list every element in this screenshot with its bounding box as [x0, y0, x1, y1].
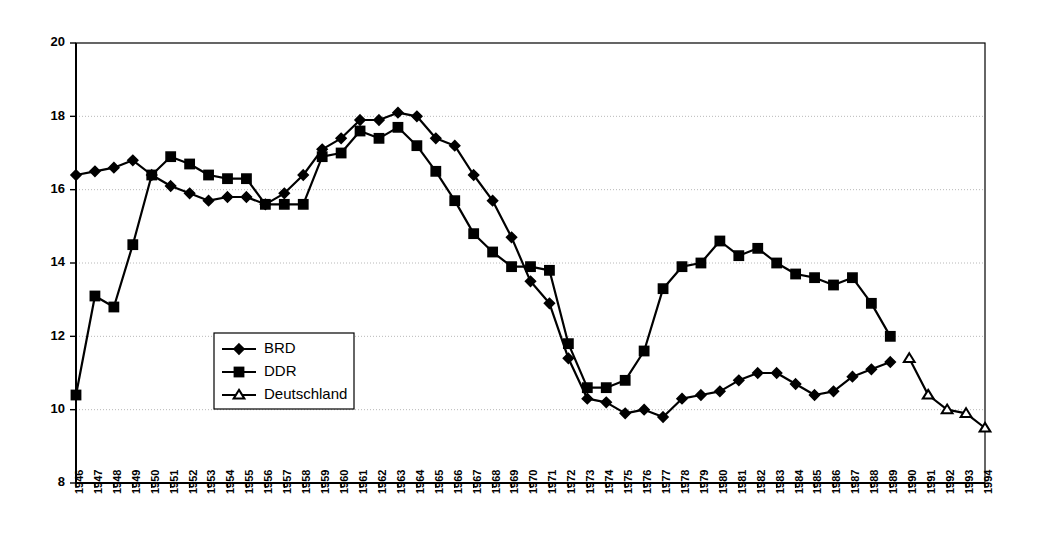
data-point-marker	[602, 383, 611, 392]
x-tick-label: 1948	[111, 470, 123, 494]
x-tick-label: 1976	[641, 470, 653, 494]
data-point-marker	[734, 375, 744, 385]
x-tick-label: 1957	[281, 470, 293, 494]
data-point-marker	[71, 390, 80, 399]
data-point-marker	[355, 126, 364, 135]
x-tick-label: 1989	[887, 470, 899, 494]
data-point-marker	[507, 232, 517, 242]
x-tick-label: 1975	[622, 470, 634, 494]
x-tick-label: 1986	[830, 470, 842, 494]
x-tick-label: 1967	[471, 470, 483, 494]
legend-item-label: Deutschland	[264, 385, 347, 402]
data-point-marker	[261, 200, 270, 209]
data-point-marker	[658, 284, 667, 293]
x-tick-label: 1981	[736, 470, 748, 494]
data-point-marker	[904, 353, 915, 362]
data-point-marker	[791, 269, 800, 278]
data-point-marker	[961, 408, 972, 417]
series-line	[909, 358, 985, 428]
data-point-marker	[753, 368, 763, 378]
data-point-marker	[488, 247, 497, 256]
chart-container: 8101214161820 19461947194819491950195119…	[0, 0, 1043, 551]
data-point-marker	[242, 174, 251, 183]
data-point-marker	[829, 280, 838, 289]
data-series	[71, 108, 990, 432]
y-tick-label: 18	[51, 108, 65, 123]
data-point-marker	[772, 258, 781, 267]
x-tick-label: 1965	[433, 470, 445, 494]
x-tick-label: 1952	[187, 470, 199, 494]
data-point-marker	[923, 390, 934, 399]
data-point-marker	[450, 196, 459, 205]
x-tick-label: 1968	[490, 470, 502, 494]
x-tick-label: 1958	[300, 470, 312, 494]
chart-legend: BRDDDRDeutschland	[214, 333, 354, 409]
data-point-marker	[563, 353, 573, 363]
data-point-marker	[810, 273, 819, 282]
x-tick-label: 1985	[811, 470, 823, 494]
x-tick-label: 1961	[357, 470, 369, 494]
data-point-marker	[241, 192, 251, 202]
data-point-marker	[810, 390, 820, 400]
x-tick-label: 1953	[205, 470, 217, 494]
data-point-marker	[337, 148, 346, 157]
y-tick-label: 8	[58, 474, 65, 489]
data-point-marker	[412, 141, 421, 150]
x-tick-label: 1973	[584, 470, 596, 494]
data-point-marker	[583, 383, 592, 392]
data-point-marker	[848, 273, 857, 282]
data-point-marker	[431, 167, 440, 176]
data-point-marker	[90, 291, 99, 300]
data-point-marker	[204, 170, 213, 179]
x-tick-label: 1993	[963, 470, 975, 494]
y-tick-label: 20	[51, 34, 65, 49]
data-point-marker	[469, 229, 478, 238]
data-point-marker	[128, 240, 137, 249]
data-point-marker	[393, 123, 402, 132]
data-point-marker	[885, 357, 895, 367]
data-point-marker	[753, 244, 762, 253]
x-tick-label: 1959	[319, 470, 331, 494]
data-point-marker	[185, 159, 194, 168]
data-point-marker	[90, 166, 100, 176]
data-point-marker	[715, 386, 725, 396]
series-line	[76, 113, 890, 417]
data-point-marker	[696, 258, 705, 267]
x-tick-label: 1980	[717, 470, 729, 494]
x-tick-label: 1979	[698, 470, 710, 494]
data-point-marker	[677, 262, 686, 271]
x-tick-label: 1987	[849, 470, 861, 494]
data-point-marker	[147, 170, 156, 179]
data-point-marker	[545, 266, 554, 275]
data-point-marker	[772, 368, 782, 378]
data-point-marker	[696, 390, 706, 400]
data-point-marker	[640, 346, 649, 355]
x-tick-label: 1963	[395, 470, 407, 494]
data-point-marker	[564, 339, 573, 348]
series-ddr	[71, 123, 895, 400]
x-tick-label: 1994	[982, 469, 994, 494]
y-tick-label: 12	[51, 328, 65, 343]
y-axis-labels: 8101214161820	[51, 34, 66, 489]
x-tick-label: 1947	[92, 470, 104, 494]
x-tick-label: 1983	[774, 470, 786, 494]
data-point-marker	[280, 200, 289, 209]
data-point-marker	[223, 192, 233, 202]
x-tick-label: 1974	[603, 469, 615, 494]
x-tick-label: 1982	[755, 470, 767, 494]
data-point-marker	[223, 174, 232, 183]
data-point-marker	[71, 170, 81, 180]
data-point-marker	[109, 163, 119, 173]
data-point-marker	[791, 379, 801, 389]
x-tick-label: 1972	[565, 470, 577, 494]
x-tick-label: 1960	[338, 470, 350, 494]
y-tick-label: 14	[51, 254, 66, 269]
data-point-marker	[204, 196, 214, 206]
series-deutschland	[904, 353, 991, 431]
data-point-marker	[734, 251, 743, 260]
x-tick-label: 1964	[414, 469, 426, 494]
data-point-marker	[715, 236, 724, 245]
x-tick-label: 1978	[679, 470, 691, 494]
data-point-marker	[109, 302, 118, 311]
data-point-marker	[866, 364, 876, 374]
